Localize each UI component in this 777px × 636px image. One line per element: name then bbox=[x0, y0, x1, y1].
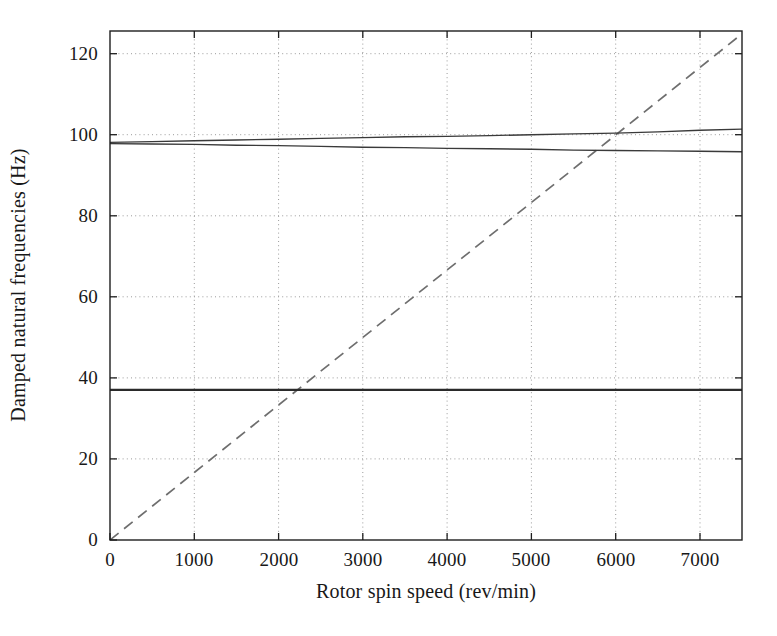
y-tick-label-20: 20 bbox=[64, 448, 98, 470]
y-tick-label-40: 40 bbox=[64, 367, 98, 389]
x-tick-label-7000: 7000 bbox=[681, 549, 720, 571]
y-tick-label-0: 0 bbox=[64, 529, 98, 551]
plot-canvas bbox=[0, 0, 777, 636]
y-axis-title: Damped natural frequencies (Hz) bbox=[1, 31, 35, 540]
x-tick-label-6000: 6000 bbox=[597, 549, 636, 571]
x-tick-label-1000: 1000 bbox=[175, 549, 214, 571]
y-tick-label-60: 60 bbox=[64, 286, 98, 308]
x-tick-label-4000: 4000 bbox=[428, 549, 467, 571]
plot-background bbox=[110, 31, 742, 540]
y-tick-label-80: 80 bbox=[64, 205, 98, 227]
y-tick-label-100: 100 bbox=[52, 124, 98, 146]
x-tick-label-2000: 2000 bbox=[260, 549, 299, 571]
y-tick-label-120: 120 bbox=[52, 43, 98, 65]
x-tick-label-3000: 3000 bbox=[344, 549, 383, 571]
x-axis-title: Rotor spin speed (rev/min) bbox=[110, 580, 742, 603]
x-tick-label-5000: 5000 bbox=[512, 549, 551, 571]
campbell-diagram-figure: 0 20 40 60 80 100 120 0 1000 2000 3000 4… bbox=[0, 0, 777, 636]
x-tick-label-0: 0 bbox=[105, 549, 115, 571]
